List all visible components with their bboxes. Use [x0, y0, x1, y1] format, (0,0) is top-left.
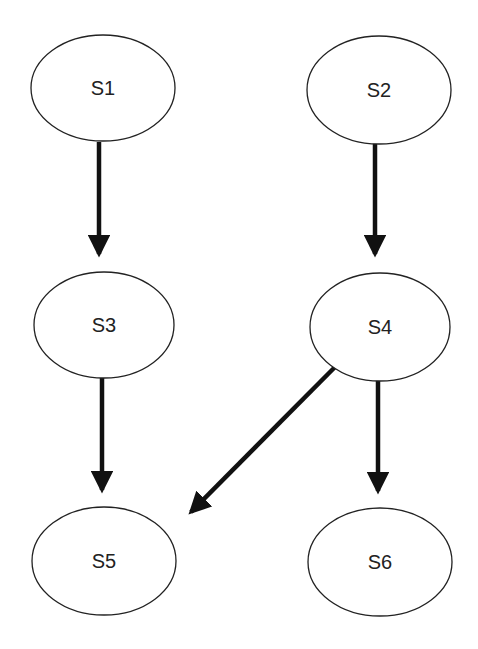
node-s2: S2: [307, 36, 451, 144]
edge-arrow-s4-to-s5: [191, 367, 335, 512]
node-s5: S5: [32, 507, 176, 615]
node-label: S2: [367, 79, 391, 101]
node-label: S3: [92, 314, 116, 336]
node-label: S6: [368, 551, 392, 573]
node-label: S5: [92, 550, 116, 572]
node-label: S1: [91, 77, 115, 99]
nodes-group: S1S2S3S4S5S6: [31, 35, 452, 616]
node-s4: S4: [310, 273, 450, 381]
node-label: S4: [368, 316, 392, 338]
node-s1: S1: [31, 35, 175, 141]
state-diagram: S1S2S3S4S5S6: [0, 0, 478, 649]
node-s6: S6: [308, 508, 452, 616]
node-s3: S3: [34, 272, 174, 378]
